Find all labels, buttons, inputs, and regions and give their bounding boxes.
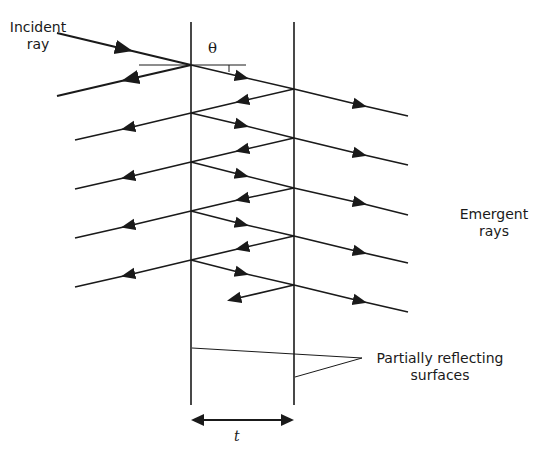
emergent-label-line2: rays xyxy=(456,223,532,240)
thickness-arrow-right-head xyxy=(281,414,294,426)
surfaces-label-line2: surfaces xyxy=(364,367,516,384)
incident-ray-label: Incident ray xyxy=(2,19,74,53)
reflected-rays xyxy=(75,113,191,287)
partially-reflecting-surfaces-label: Partially reflecting surfaces xyxy=(364,350,516,384)
emergent-rays xyxy=(294,89,408,312)
reflected-ray-1 xyxy=(57,65,191,96)
internal-rays xyxy=(191,65,294,299)
thickness-label: t xyxy=(234,428,240,445)
emergent-label-line1: Emergent xyxy=(456,206,532,223)
incident-label-line1: Incident xyxy=(2,19,74,36)
theta-label: θ xyxy=(208,40,217,57)
emergent-rays-label: Emergent rays xyxy=(456,206,532,240)
incident-ray xyxy=(57,33,191,65)
surface-leader-lines xyxy=(192,348,362,377)
thickness-arrow-left-head xyxy=(191,414,204,426)
incident-label-line2: ray xyxy=(2,36,74,53)
surfaces-label-line1: Partially reflecting xyxy=(364,350,516,367)
